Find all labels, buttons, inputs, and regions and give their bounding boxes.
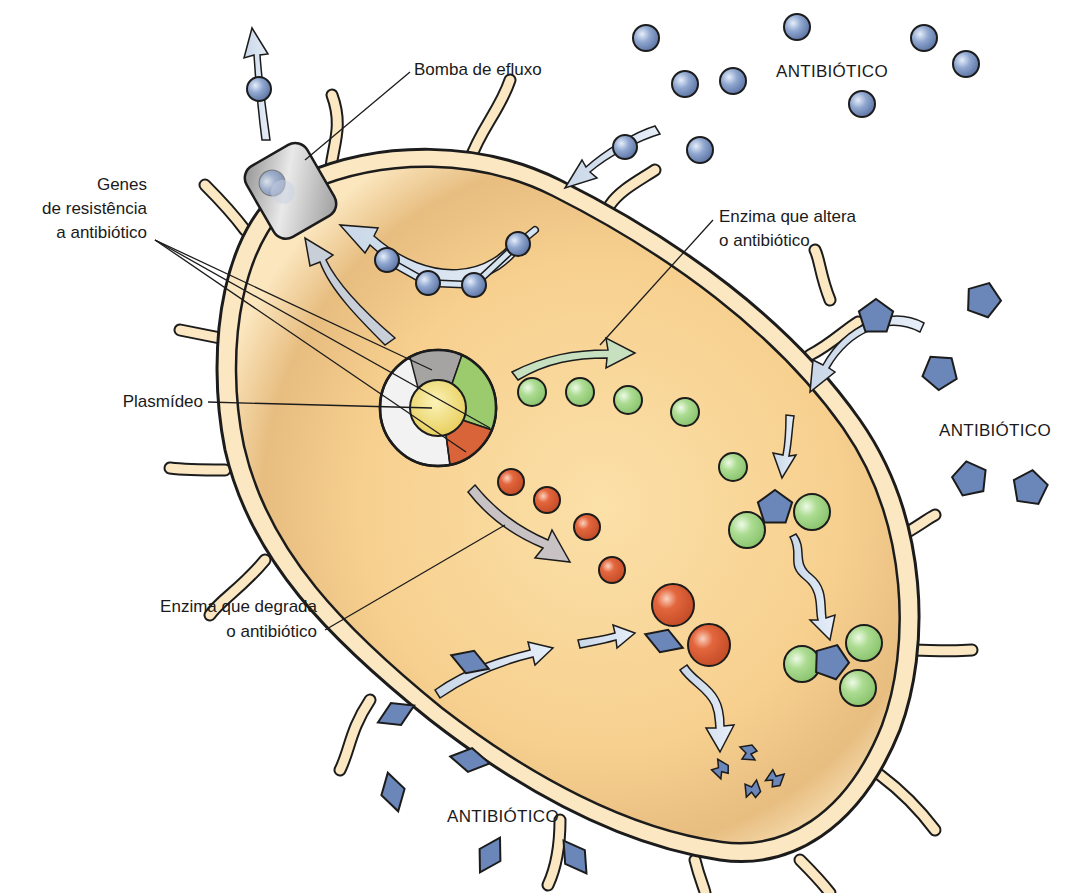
antibiotic-label-bottom: ANTIBIÓTICO bbox=[447, 807, 559, 826]
resistance-genes-label-line2: de resistência bbox=[42, 199, 147, 218]
altering-enzyme bbox=[671, 398, 699, 426]
degrading-enzyme bbox=[599, 557, 625, 583]
altering-enzyme-label-line2: o antibiótico bbox=[719, 231, 810, 250]
plasmid-label: Plasmídeo bbox=[123, 392, 203, 411]
degrading-enzyme bbox=[574, 514, 600, 540]
sphere-antibiotic-in-chain bbox=[375, 248, 399, 272]
antibiotic-label-top: ANTIBIÓTICO bbox=[776, 62, 888, 81]
antibiotic-resistance-diagram: Bomba de efluxo Genes de resistência a a… bbox=[0, 0, 1077, 893]
altering-enzyme-bound bbox=[729, 512, 765, 548]
rhombus-antibiotic bbox=[376, 770, 410, 815]
altering-enzyme-bound bbox=[794, 494, 830, 530]
degrading-enzyme bbox=[534, 487, 560, 513]
sphere-antibiotic bbox=[672, 71, 698, 97]
sphere-antibiotic-in-chain bbox=[416, 271, 440, 295]
pentagon-antibiotic bbox=[968, 283, 1001, 317]
plasmid bbox=[380, 350, 496, 466]
sphere-antibiotic-in-chain bbox=[506, 232, 530, 256]
pentagon-antibiotic bbox=[952, 461, 986, 495]
sphere-antibiotic-entering bbox=[613, 135, 637, 159]
altering-enzyme-label-line1: Enzima que altera bbox=[719, 207, 857, 226]
degrading-enzyme-label-line1: Enzima que degrada bbox=[160, 597, 317, 616]
sphere-antibiotic bbox=[633, 25, 659, 51]
degrading-enzyme bbox=[498, 469, 524, 495]
pentagon-antibiotic bbox=[923, 357, 957, 390]
altering-enzyme bbox=[518, 378, 546, 406]
sphere-antibiotic bbox=[849, 91, 875, 117]
altering-enzyme bbox=[719, 453, 747, 481]
pentagon-antibiotic bbox=[1014, 470, 1048, 504]
altering-enzyme bbox=[614, 386, 642, 414]
sphere-antibiotic-expelled bbox=[247, 77, 271, 101]
altering-enzyme-bound bbox=[840, 670, 876, 706]
sphere-antibiotic bbox=[720, 68, 746, 94]
rhombus-antibiotic bbox=[470, 832, 511, 879]
degrading-enzyme-bound bbox=[688, 624, 730, 666]
efflux-pump-label: Bomba de efluxo bbox=[414, 60, 542, 79]
altering-enzyme bbox=[566, 378, 594, 406]
antibiotic-label-right: ANTIBIÓTICO bbox=[939, 421, 1051, 440]
sphere-antibiotic bbox=[953, 51, 979, 77]
degrading-enzyme-label-line2: o antibiótico bbox=[226, 622, 317, 641]
sphere-antibiotic bbox=[911, 25, 937, 51]
sphere-antibiotic bbox=[687, 137, 713, 163]
sphere-antibiotic bbox=[784, 14, 810, 40]
sphere-antibiotic-in-chain bbox=[462, 273, 486, 297]
altering-enzyme-bound bbox=[784, 646, 820, 682]
resistance-genes-label-line3: a antibiótico bbox=[56, 223, 147, 242]
degrading-enzyme-bound bbox=[652, 584, 694, 626]
resistance-genes-label-line1: Genes bbox=[97, 175, 147, 194]
pentagon-antibiotic bbox=[859, 299, 893, 332]
altering-enzyme-bound bbox=[846, 625, 882, 661]
